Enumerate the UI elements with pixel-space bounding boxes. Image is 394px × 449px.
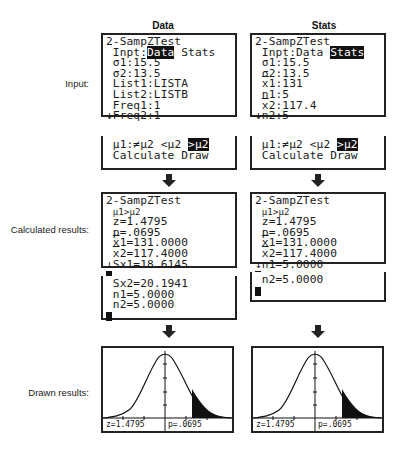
z-statistic-label: z=1.4795: [256, 420, 295, 429]
data-results-screen-continued: Sx2=20.1941 n1=5.0000 n2=5.0000: [101, 276, 237, 320]
z-statistic-label: z=1.4795: [106, 420, 145, 429]
calculate-button[interactable]: Calculate: [262, 149, 324, 162]
data-results-screen: 2-SampZTest μ1>μ2 z=1.4795 p=.0695 x1=13…: [101, 192, 237, 268]
row-label-drawn: Drawn results:: [28, 387, 89, 398]
p-value-label: p=.0695: [318, 420, 352, 429]
n1-value: ↓n1=5.0000: [255, 258, 323, 271]
screen-title: 2-SampZTest: [106, 196, 235, 207]
data-hypothesis-screen: μ1:≠μ2 <μ2 >μ2 Calculate Draw: [101, 136, 237, 170]
screen-title: 2-SampZTest: [255, 196, 384, 207]
cursor-block: [255, 287, 261, 296]
normal-curve-icon: [103, 348, 232, 431]
cursor-block: [106, 312, 112, 321]
inpt-option-stats[interactable]: Stats: [181, 46, 215, 59]
n2-value: n2=5.0000: [113, 298, 175, 311]
column-header-stats: Stats: [284, 20, 364, 31]
stats-input-screen: 2-SampZTest Inpt:Data Stats σ1:15.5 σ2:1…: [250, 33, 386, 117]
p-value-label: p=.0695: [168, 420, 202, 429]
n2-field[interactable]: ↓n2:5: [255, 109, 289, 122]
calculate-button[interactable]: Calculate: [113, 149, 175, 162]
row-label-input: Input:: [65, 78, 89, 89]
data-normal-curve-graph: z=1.4795 p=.0695: [101, 346, 234, 433]
stats-results-screen-continued: n2=5.0000: [250, 272, 386, 302]
draw-button[interactable]: Draw: [181, 149, 208, 162]
stats-hypothesis-screen: μ1:≠μ2 <μ2 >μ2 Calculate Draw: [250, 136, 386, 170]
freq2-field[interactable]: ↓Freq2:1: [106, 109, 161, 122]
normal-curve-icon: [253, 348, 382, 431]
data-input-screen: 2-SampZTest Inpt:Data Stats σ1:15.5 σ2:1…: [101, 33, 237, 117]
n2-value: n2=5.0000: [262, 273, 324, 286]
inpt-option-stats-selected[interactable]: Stats: [330, 46, 364, 59]
draw-button[interactable]: Draw: [330, 149, 357, 162]
stats-results-screen: 2-SampZTest μ1>μ2 z=1.4795 p=.0695 x1=13…: [250, 192, 386, 264]
stats-normal-curve-graph: z=1.4795 p=.0695: [251, 346, 384, 433]
row-label-calculated: Calculated results:: [11, 224, 89, 235]
sx1-value: ↓Sx1=18.6145: [106, 258, 188, 271]
column-header-data: Data: [123, 20, 203, 31]
